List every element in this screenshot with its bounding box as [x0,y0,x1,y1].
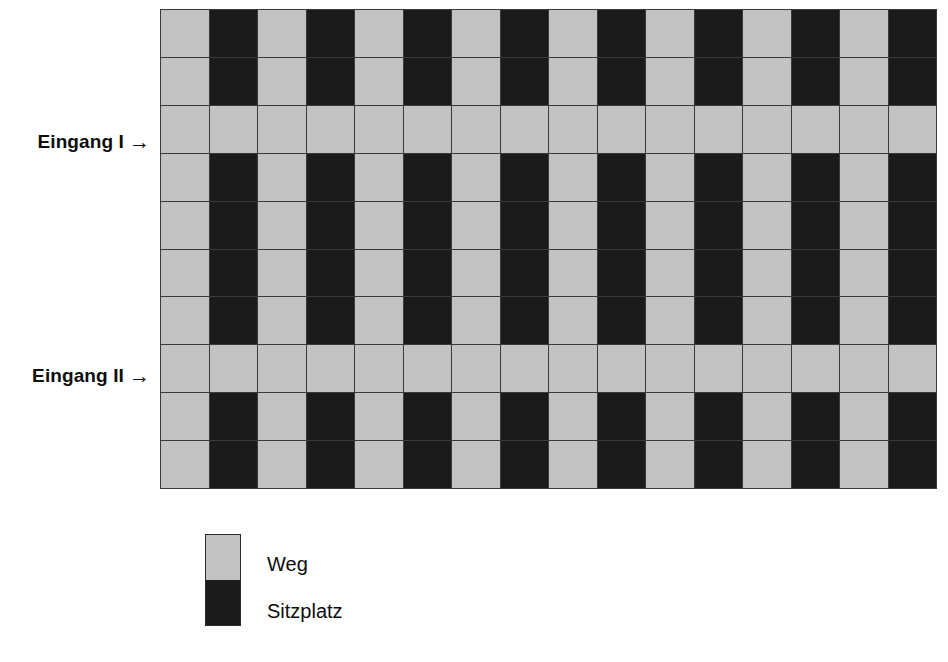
grid-cell-weg [404,106,452,153]
grid-cell-sitzplatz [501,393,549,440]
grid-cell-weg [549,441,597,488]
grid-cell-weg [840,10,888,57]
grid-cell-weg [452,10,500,57]
grid-cell-weg [501,106,549,153]
grid-cell-weg [646,106,694,153]
grid-cell-weg [258,393,306,440]
grid-cell-sitzplatz [598,10,646,57]
grid-cell-weg [646,10,694,57]
grid-cell-weg [889,345,937,392]
grid-cell-sitzplatz [404,297,452,344]
grid-cell-weg [161,297,209,344]
grid-cell-weg [210,106,258,153]
grid-cell-weg [598,106,646,153]
grid-cell-weg [258,10,306,57]
grid-cell-weg [355,250,403,297]
grid-cell-weg [549,345,597,392]
grid-cell-sitzplatz [307,441,355,488]
grid-cell-weg [161,10,209,57]
grid-cell-weg [258,58,306,105]
grid-cell-sitzplatz [598,441,646,488]
grid-cell-weg [743,202,791,249]
entrance-label-text: Eingang I [37,131,123,152]
grid-cell-weg [743,10,791,57]
grid-cell-weg [452,250,500,297]
legend-swatch-stack [205,534,241,626]
grid-cell-weg [646,250,694,297]
grid-cell-weg [646,393,694,440]
grid-cell-weg [549,58,597,105]
grid-cell-weg [549,297,597,344]
grid-cell-weg [452,58,500,105]
grid-cell-sitzplatz [598,250,646,297]
grid-cell-weg [549,250,597,297]
grid-cell-sitzplatz [501,250,549,297]
grid-cell-weg [598,345,646,392]
grid-cell-sitzplatz [210,202,258,249]
grid-cell-weg [549,10,597,57]
grid-cell-weg [646,154,694,201]
grid-cell-weg [161,393,209,440]
grid-cell-weg [258,154,306,201]
grid-cell-weg [840,441,888,488]
grid-cell-weg [161,58,209,105]
grid-cell-weg [210,345,258,392]
grid-cell-sitzplatz [404,10,452,57]
grid-cell-weg [695,345,743,392]
grid-cell-sitzplatz [792,58,840,105]
grid-cell-sitzplatz [501,154,549,201]
grid-cell-sitzplatz [889,441,937,488]
grid-cell-weg [452,106,500,153]
grid-cell-sitzplatz [792,297,840,344]
grid-cell-weg [161,154,209,201]
grid-cell-weg [161,202,209,249]
grid-cell-weg [743,393,791,440]
grid-cell-weg [840,202,888,249]
grid-cell-sitzplatz [307,393,355,440]
grid-cell-sitzplatz [501,441,549,488]
grid-cell-sitzplatz [889,10,937,57]
grid-cell-weg [646,297,694,344]
grid-cell-weg [355,154,403,201]
grid-cell-weg [307,345,355,392]
grid-cell-sitzplatz [501,297,549,344]
grid-cell-sitzplatz [792,10,840,57]
grid-cell-weg [161,441,209,488]
grid-cell-weg [743,250,791,297]
grid-cell-weg [743,345,791,392]
grid-cell-sitzplatz [695,58,743,105]
grid-cell-sitzplatz [404,250,452,297]
grid-cell-sitzplatz [210,10,258,57]
grid-cell-weg [355,297,403,344]
grid-cell-weg [549,154,597,201]
grid-cell-weg [840,297,888,344]
grid-cell-sitzplatz [210,393,258,440]
grid-cell-weg [792,106,840,153]
grid-cell-weg [258,202,306,249]
grid-cell-sitzplatz [695,202,743,249]
grid-cell-weg [840,345,888,392]
grid-cell-weg [743,297,791,344]
grid-cell-weg [452,345,500,392]
grid-cell-sitzplatz [889,154,937,201]
grid-cell-weg [258,297,306,344]
grid-cell-sitzplatz [695,250,743,297]
grid-cell-weg [549,393,597,440]
entrance-label-eingang-1: Eingang I→ [14,131,150,152]
arrow-right-icon: → [129,365,150,386]
grid-cell-weg [549,202,597,249]
grid-cell-weg [840,58,888,105]
grid-cell-sitzplatz [792,250,840,297]
grid-cell-sitzplatz [210,441,258,488]
grid-cell-sitzplatz [404,393,452,440]
grid-cell-sitzplatz [210,250,258,297]
entrance-label-text: Eingang II [32,365,124,386]
grid-cell-sitzplatz [598,202,646,249]
grid-cell-sitzplatz [889,297,937,344]
entrance-label-eingang-2: Eingang II→ [14,365,150,386]
grid-cell-sitzplatz [792,393,840,440]
grid-cell-sitzplatz [404,58,452,105]
grid-cell-weg [646,441,694,488]
grid-cell-weg [549,106,597,153]
grid-cell-sitzplatz [695,297,743,344]
